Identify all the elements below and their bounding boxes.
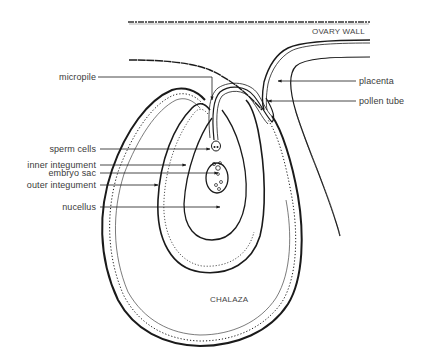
embryo-sac-shape (206, 162, 228, 193)
micropile-label: micropile (59, 72, 96, 82)
pollen-tube-label: pollen tube (359, 96, 404, 106)
embryo-sac-label: embryo sac (48, 168, 96, 178)
chalaza-label: CHALAZA (210, 295, 248, 305)
nucellus-label: nucellus (62, 202, 96, 212)
sperm-cells-label: sperm cells (49, 144, 96, 154)
pollen-tube-shape (209, 83, 274, 151)
sperm-cells-dots (214, 146, 219, 148)
placenta (263, 40, 371, 236)
nucellus-shape (184, 110, 246, 240)
ovary-wall-label: OVARY WALL (312, 27, 365, 37)
ovule-upper-edge (129, 60, 262, 110)
ovary-wall (128, 22, 370, 24)
placenta-label: placenta (359, 76, 394, 86)
inner-integument-shape (158, 100, 264, 273)
outer-integument-label: outer integument (27, 180, 96, 190)
leader-lines (98, 77, 356, 207)
outer-integument-shape (102, 88, 302, 346)
micropile-leader (98, 77, 212, 100)
